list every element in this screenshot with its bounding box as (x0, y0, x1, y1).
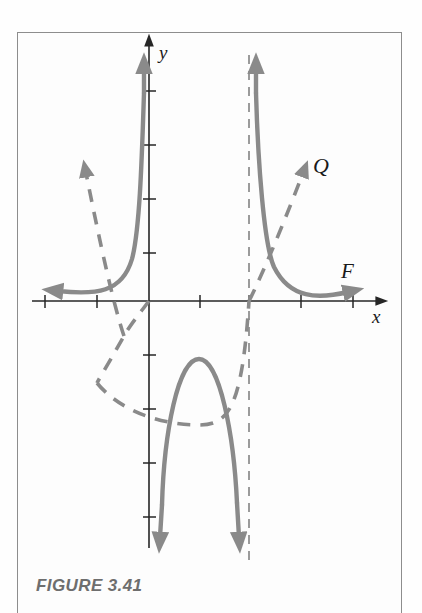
curve-f-middle-right-tail (237, 503, 239, 537)
figure-page: y x F Q FIGURE 3.41 (0, 0, 422, 613)
curve-q-dashed (86, 173, 303, 425)
curve-q-label: Q (313, 153, 329, 178)
curve-q-left-arm (97, 301, 149, 383)
x-axis-label: x (371, 306, 381, 327)
curve-f-solid (58, 69, 348, 537)
graph-plot: y x F Q (18, 33, 403, 578)
curve-f-right-branch (256, 93, 348, 296)
curve-q-upper-right-arm (249, 173, 303, 301)
curve-f-left-branch (58, 93, 144, 292)
curve-q-upper-left-arm (86, 173, 124, 336)
figure-frame: y x F Q (17, 32, 402, 613)
y-axis-label: y (157, 42, 168, 63)
figure-caption: FIGURE 3.41 (36, 576, 142, 596)
curve-f-middle-left-tail (160, 505, 162, 537)
curve-f-label: F (340, 259, 354, 283)
curve-f-middle-branch (162, 359, 237, 505)
